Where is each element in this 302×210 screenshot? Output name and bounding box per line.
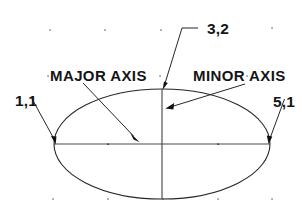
left-point-label: 1,1 [15, 92, 37, 109]
minor-axis-leader [165, 84, 245, 109]
grid-dot [52, 198, 54, 200]
grid-dot-layer [47, 27, 272, 200]
arrow-head [165, 103, 174, 109]
grid-dot [217, 198, 219, 200]
top-point-label: 3,2 [207, 20, 229, 37]
ellipse-diagram: 3,2 1,1 5,1 MAJOR AXIS MINOR AXIS [0, 0, 302, 210]
grid-dot [104, 29, 106, 31]
grid-dot [107, 198, 109, 200]
major-axis-leader [83, 83, 140, 142]
grid-dot [49, 29, 51, 31]
minor-axis-label: MINOR AXIS [193, 67, 286, 84]
grid-dot [47, 75, 49, 77]
diagram-canvas: 3,2 1,1 5,1 MAJOR AXIS MINOR AXIS [0, 0, 302, 210]
right-point-label: 5,1 [273, 93, 295, 110]
axis-dot [107, 143, 109, 145]
major-axis-label: MAJOR AXIS [50, 67, 147, 84]
axis-dot [217, 143, 219, 145]
arrow-head [130, 133, 139, 142]
grid-dot [159, 75, 161, 77]
grid-dot [271, 198, 273, 200]
grid-dot [160, 29, 162, 31]
grid-dot [271, 27, 273, 29]
